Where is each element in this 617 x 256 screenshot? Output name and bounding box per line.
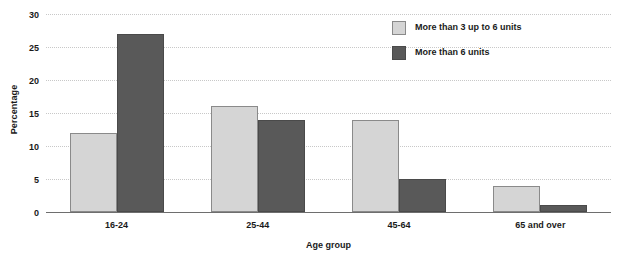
bar (540, 205, 587, 212)
legend-label: More than 6 units (415, 48, 490, 57)
x-axis-tick-label: 25-44 (187, 218, 328, 232)
plot-area: 051015202530 (46, 14, 611, 212)
legend-item[interactable]: More than 3 up to 6 units (392, 20, 522, 35)
bar (211, 106, 258, 212)
bar (117, 34, 164, 212)
bars-layer (46, 14, 611, 212)
x-axis-tick-label: 45-64 (329, 218, 470, 232)
y-axis-tick-label: 25 (29, 44, 39, 53)
bar (399, 179, 446, 212)
bar-chart: Percentage 051015202530 16-2425-4445-646… (0, 0, 617, 256)
y-axis-tick-label: 10 (29, 143, 39, 152)
x-axis-tick-label: 65 and over (470, 218, 611, 232)
y-axis-tick-label: 5 (34, 176, 39, 185)
axis-baseline: 0 (46, 212, 611, 214)
x-axis-tick-labels: 16-2425-4445-6465 and over (46, 218, 611, 232)
legend-label: More than 3 up to 6 units (415, 23, 522, 32)
chart-legend: More than 3 up to 6 unitsMore than 6 uni… (392, 20, 522, 60)
y-axis-tick-label: 30 (29, 11, 39, 20)
bar (258, 120, 305, 212)
y-axis-tick-label: 20 (29, 77, 39, 86)
x-axis-title: Age group (46, 239, 611, 251)
legend-swatch-icon (392, 21, 406, 35)
y-axis-title: Percentage (7, 2, 21, 217)
x-axis-tick-label: 16-24 (46, 218, 187, 232)
legend-swatch-icon (392, 46, 406, 60)
y-axis-tick-label: 15 (29, 110, 39, 119)
bar (352, 120, 399, 212)
bar (70, 133, 117, 212)
legend-item[interactable]: More than 6 units (392, 45, 522, 60)
bar (493, 186, 540, 212)
y-axis-tick-label: 0 (34, 209, 39, 218)
